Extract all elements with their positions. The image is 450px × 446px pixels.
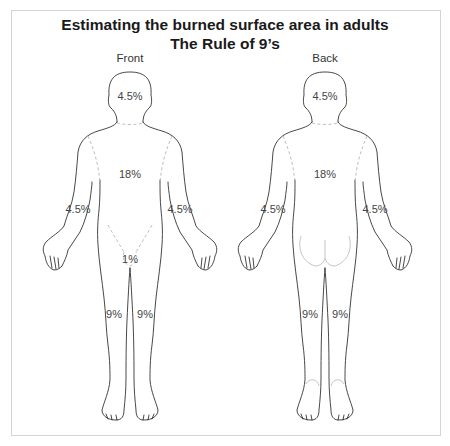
front-right-arm-percent: 4.5% (167, 203, 192, 215)
back-head-percent: 4.5% (312, 90, 337, 102)
front-right-leg-percent: 9% (137, 308, 153, 320)
back-left-leg-percent: 9% (302, 308, 318, 320)
back-body-figure (238, 72, 412, 420)
front-head-percent: 4.5% (117, 90, 142, 102)
front-left-arm-percent: 4.5% (65, 203, 90, 215)
back-trunk-percent: 18% (314, 168, 336, 180)
front-genitals-percent: 1% (122, 253, 138, 265)
front-left-leg-percent: 9% (106, 308, 122, 320)
back-left-arm-percent: 4.5% (260, 203, 285, 215)
front-trunk-percent: 18% (119, 168, 141, 180)
back-right-arm-percent: 4.5% (362, 203, 387, 215)
front-body-figure (43, 72, 217, 420)
back-right-leg-percent: 9% (332, 308, 348, 320)
body-diagrams: 4.5% 18% 4.5% 4.5% 1% 9% 9% 4.5% 18% 4.5… (0, 0, 450, 446)
